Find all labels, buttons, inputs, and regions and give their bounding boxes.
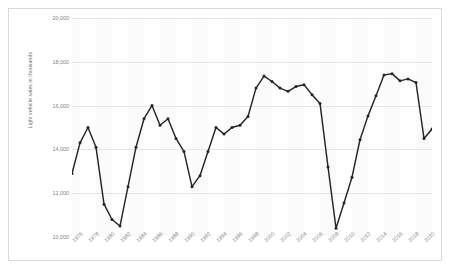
data-point-marker <box>375 94 378 97</box>
data-point-marker <box>103 203 106 206</box>
y-axis-tick-label: 16,000 <box>33 103 69 109</box>
series-polyline <box>72 74 432 229</box>
data-point-marker <box>223 133 226 136</box>
data-point-marker <box>247 115 250 118</box>
data-point-marker <box>87 126 90 129</box>
data-point-marker <box>271 80 274 83</box>
data-point-marker <box>135 146 138 149</box>
data-point-marker <box>231 126 234 129</box>
y-axis-tick-label: 18,000 <box>33 59 69 65</box>
data-point-marker <box>343 202 346 205</box>
data-point-marker <box>391 72 394 75</box>
data-point-marker <box>319 102 322 105</box>
y-axis-tick-label: 14,000 <box>33 146 69 152</box>
y-axis-tick-label: 20,000 <box>33 15 69 21</box>
data-point-marker <box>215 126 218 129</box>
data-point-marker <box>143 117 146 120</box>
data-point-marker <box>175 137 178 140</box>
data-point-marker <box>279 87 282 90</box>
y-axis-tick-label: 12,000 <box>33 190 69 196</box>
data-point-marker <box>423 137 426 140</box>
data-point-marker <box>367 114 370 117</box>
data-point-marker <box>255 87 258 90</box>
x-axis-tick-labels: 1976197819801982198419861988199019921994… <box>72 239 432 263</box>
data-point-marker <box>239 124 242 127</box>
data-point-marker <box>399 79 402 82</box>
data-point-marker <box>311 93 314 96</box>
data-point-marker <box>72 172 74 175</box>
data-point-marker <box>263 75 266 78</box>
chart-container: Light vehicle sales in thousands 20,0001… <box>8 8 442 261</box>
data-point-marker <box>383 73 386 76</box>
data-point-marker <box>95 146 98 149</box>
data-point-marker <box>183 150 186 153</box>
data-point-marker <box>151 104 154 107</box>
series-markers <box>72 72 432 230</box>
y-axis-tick-labels: 20,00018,00016,00014,00012,00010,000 <box>25 9 69 262</box>
data-line-series <box>72 18 432 237</box>
data-point-marker <box>199 174 202 177</box>
data-point-marker <box>415 81 418 84</box>
data-point-marker <box>327 165 330 168</box>
data-point-marker <box>191 185 194 188</box>
data-point-marker <box>359 138 362 141</box>
data-point-marker <box>295 85 298 88</box>
data-point-marker <box>303 83 306 86</box>
data-point-marker <box>407 77 410 80</box>
y-axis-tick-label: 10,000 <box>33 234 69 240</box>
data-point-marker <box>79 141 82 144</box>
data-point-marker <box>111 218 114 221</box>
data-point-marker <box>167 117 170 120</box>
plot-area <box>72 18 432 237</box>
data-point-marker <box>119 225 122 228</box>
data-point-marker <box>207 150 210 153</box>
data-point-marker <box>287 90 290 93</box>
data-point-marker <box>127 185 130 188</box>
data-point-marker <box>159 124 162 127</box>
data-point-marker <box>351 176 354 179</box>
